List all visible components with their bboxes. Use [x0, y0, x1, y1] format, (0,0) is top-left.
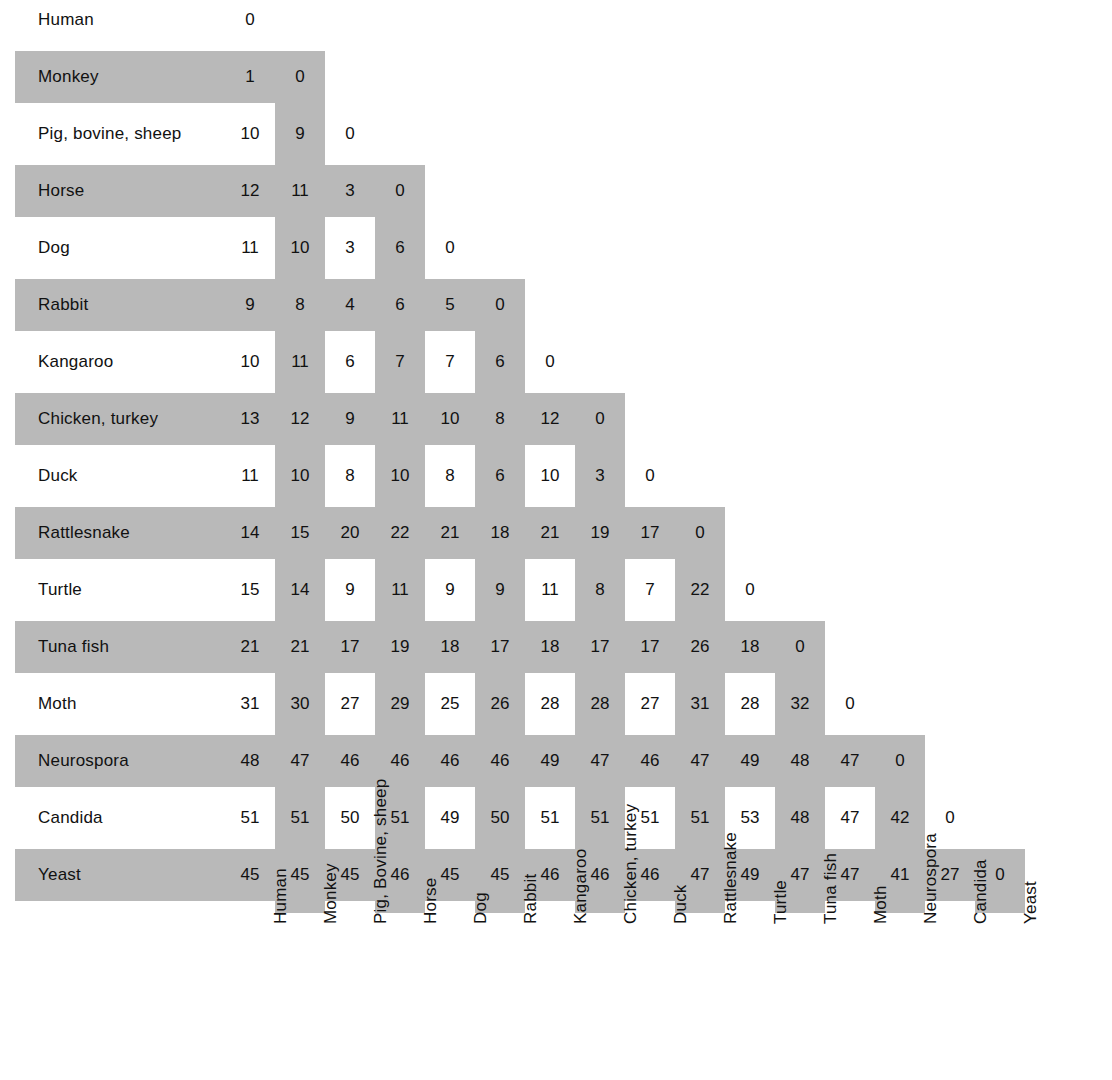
column-label: Dog	[459, 872, 479, 924]
matrix-cell: 32	[775, 678, 825, 730]
column-label: Rattlesnake	[709, 872, 729, 924]
column-label: Rabbit	[509, 872, 529, 924]
matrix-cell: 30	[275, 678, 325, 730]
matrix-cell: 47	[275, 735, 325, 787]
matrix-cell: 9	[325, 564, 375, 616]
matrix-cell: 22	[375, 507, 425, 559]
matrix-row: Tuna fish21211719181718171726180	[0, 621, 1112, 673]
matrix-cell: 47	[825, 792, 875, 844]
matrix-cell: 0	[375, 165, 425, 217]
matrix-row: Turtle1514911991187220	[0, 564, 1112, 616]
row-label: Rattlesnake	[38, 507, 130, 559]
matrix-cell: 0	[225, 0, 275, 46]
matrix-cell: 48	[775, 735, 825, 787]
matrix-cell: 14	[225, 507, 275, 559]
matrix-cell: 0	[525, 336, 575, 388]
matrix-cell: 51	[675, 792, 725, 844]
column-label: Neurospora	[909, 872, 929, 924]
row-label: Pig, bovine, sheep	[38, 108, 181, 160]
column-label: Moth	[859, 872, 879, 924]
column-label: Monkey	[309, 872, 329, 924]
matrix-cell: 8	[275, 279, 325, 331]
matrix-cell: 9	[225, 279, 275, 331]
matrix-cell: 15	[275, 507, 325, 559]
matrix-cell: 0	[475, 279, 525, 331]
matrix-cell: 11	[525, 564, 575, 616]
row-label: Moth	[38, 678, 77, 730]
matrix-cell: 0	[575, 393, 625, 445]
matrix-cell: 12	[225, 165, 275, 217]
row-label: Human	[38, 0, 94, 46]
row-label: Duck	[38, 450, 78, 502]
matrix-cell: 14	[275, 564, 325, 616]
matrix-row: Chicken, turkey1312911108120	[0, 393, 1112, 445]
matrix-cell: 12	[275, 393, 325, 445]
matrix-cell: 28	[525, 678, 575, 730]
row-label: Dog	[38, 222, 70, 274]
matrix-cell: 47	[675, 735, 725, 787]
matrix-cell: 10	[525, 450, 575, 502]
matrix-row: Moth3130272925262828273128320	[0, 678, 1112, 730]
matrix-cell: 31	[675, 678, 725, 730]
matrix-row: Neurospora484746464646494746474948470	[0, 735, 1112, 787]
matrix-cell: 51	[275, 792, 325, 844]
matrix-cell: 13	[225, 393, 275, 445]
matrix-cell: 29	[375, 678, 425, 730]
row-label: Tuna fish	[38, 621, 109, 673]
matrix-cell: 6	[375, 279, 425, 331]
matrix-cell: 10	[225, 336, 275, 388]
matrix-cell: 9	[425, 564, 475, 616]
matrix-cell: 11	[275, 165, 325, 217]
matrix-cell: 10	[275, 222, 325, 274]
matrix-cell: 8	[425, 450, 475, 502]
matrix-cell: 10	[225, 108, 275, 160]
matrix-cell: 49	[425, 792, 475, 844]
matrix-cell: 3	[575, 450, 625, 502]
matrix-cell: 17	[475, 621, 525, 673]
matrix-cell: 0	[825, 678, 875, 730]
matrix-cell: 26	[475, 678, 525, 730]
matrix-cell: 50	[325, 792, 375, 844]
column-label: Duck	[659, 872, 679, 924]
matrix-cell: 47	[575, 735, 625, 787]
matrix-cell: 8	[575, 564, 625, 616]
matrix-cell: 0	[875, 735, 925, 787]
matrix-cell: 12	[525, 393, 575, 445]
row-label: Monkey	[38, 51, 99, 103]
column-label: Human	[259, 872, 279, 924]
matrix-cell: 46	[325, 735, 375, 787]
matrix-cell: 7	[375, 336, 425, 388]
matrix-cell: 10	[375, 450, 425, 502]
matrix-cell: 8	[475, 393, 525, 445]
matrix-cell: 26	[675, 621, 725, 673]
row-label: Kangaroo	[38, 336, 113, 388]
matrix-cell: 50	[475, 792, 525, 844]
matrix-cell: 46	[475, 735, 525, 787]
matrix-cell: 10	[425, 393, 475, 445]
matrix-cell: 27	[325, 678, 375, 730]
matrix-cell: 15	[225, 564, 275, 616]
matrix-cell: 22	[675, 564, 725, 616]
column-label: Chicken, turkey	[609, 872, 629, 924]
matrix-cell: 47	[825, 735, 875, 787]
column-label: Kangaroo	[559, 872, 579, 924]
row-label: Neurospora	[38, 735, 129, 787]
figure-caption	[0, 1062, 1112, 1080]
matrix-cell: 46	[425, 735, 475, 787]
matrix-cell: 6	[475, 450, 525, 502]
matrix-cell: 10	[275, 450, 325, 502]
matrix-cell: 21	[275, 621, 325, 673]
matrix-row: Pig, bovine, sheep1090	[0, 108, 1112, 160]
matrix-row: Human0	[0, 0, 1112, 46]
matrix-cell: 51	[525, 792, 575, 844]
matrix-cell: 7	[425, 336, 475, 388]
matrix-cell: 6	[375, 222, 425, 274]
column-label: Turtle	[759, 872, 779, 924]
matrix-cell: 9	[275, 108, 325, 160]
matrix-row: Dog1110360	[0, 222, 1112, 274]
matrix-cell: 0	[675, 507, 725, 559]
matrix-cell: 17	[575, 621, 625, 673]
matrix-cell: 9	[325, 393, 375, 445]
matrix-cell: 18	[475, 507, 525, 559]
matrix-cell: 9	[475, 564, 525, 616]
